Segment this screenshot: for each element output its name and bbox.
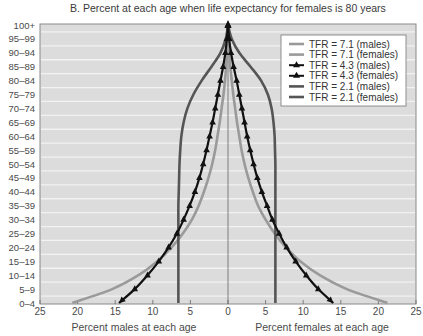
y-tick-label: 55–59 [9,145,35,156]
legend-label: TFR = 7.1 (females) [309,49,398,60]
y-tick-label: 50–54 [9,159,35,170]
y-tick-label: 25–29 [9,228,35,239]
x-tick-label: 25 [410,306,422,317]
legend-label: TFR = 2.1 (males) [309,81,390,92]
x-tick-label: 5 [188,306,194,317]
y-tick-label: 45–49 [9,172,35,183]
legend-label: TFR = 4.3 (males) [309,60,390,71]
y-tick-label: 80–84 [9,75,35,86]
y-tick-label: 75–79 [9,89,35,100]
legend-label: TFR = 4.3 (females) [309,70,398,81]
x-tick-label: 15 [335,306,347,317]
y-tick-label: 95–99 [9,33,35,44]
chart-title: B. Percent at each age when life expecta… [70,2,386,14]
x-tick-label: 10 [147,306,159,317]
x-tick-label: 20 [72,306,84,317]
y-tick-label: 5–9 [19,284,35,295]
y-tick-label: 10–14 [9,270,35,281]
x-tick-label: 5 [263,306,269,317]
x-tick-label: 15 [110,306,122,317]
legend-label: TFR = 7.1 (males) [309,39,390,50]
chart-canvas: B. Percent at each age when life expecta… [0,0,423,336]
y-tick-label: 0–4 [19,298,35,309]
y-tick-label: 90–94 [9,47,35,58]
y-tick-label: 60–64 [9,131,35,142]
y-tick-label: 20–24 [9,242,35,253]
y-tick-label: 65–69 [9,117,35,128]
y-tick-label: 40–44 [9,186,35,197]
legend-label: TFR = 2.1 (females) [309,92,398,103]
x-tick-label: 0 [225,306,231,317]
y-tick-label: 70–74 [9,103,35,114]
y-tick-label: 35–39 [9,200,35,211]
y-axis-labels: 0–45–910–1415–1920–2425–2930–3435–3940–4… [9,20,36,309]
y-tick-label: 85–89 [9,61,35,72]
population-pyramid-chart: B. Percent at each age when life expecta… [0,0,423,336]
x-axis-label-females: Percent females at each age [255,321,389,333]
y-tick-label: 100+ [14,20,36,31]
y-tick-label: 30–34 [9,214,35,225]
x-axis-label-males: Percent males at each age [72,321,197,333]
legend: TFR = 7.1 (males)TFR = 7.1 (females)TFR … [281,35,406,106]
y-tick-label: 15–19 [9,256,35,267]
x-tick-label: 10 [298,306,310,317]
x-tick-label: 20 [373,306,385,317]
x-tick-label: 25 [34,306,46,317]
